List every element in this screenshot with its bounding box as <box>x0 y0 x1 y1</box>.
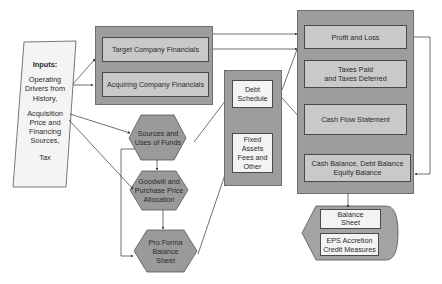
debt-line: Debt <box>245 85 260 94</box>
balance-sheet-line: Sheet <box>341 219 360 228</box>
cash-debt-equity-balances: Cash Balance, Debt Balance Equity Balanc… <box>304 154 411 182</box>
fixed-line: Assets <box>242 144 264 153</box>
taxes-line: Taxes Paid <box>338 65 373 74</box>
inputs-title: Inputs: <box>18 60 72 69</box>
pro-forma-label: Pro Forma Balance Sheet <box>136 232 195 270</box>
sources-uses-label: Sources and Uses of Funds <box>130 118 186 158</box>
pnl-label: Profit and Loss <box>332 33 380 42</box>
inputs-text: Inputs: Operating Drivers from History, … <box>18 60 72 162</box>
fixed-line: Fees and <box>238 153 268 162</box>
sources-uses-line: Uses of Funds <box>135 138 181 147</box>
arrow-inputs-to-sources <box>70 114 130 133</box>
pro-forma-line: Sheet <box>156 256 175 265</box>
pro-forma-line: Balance <box>153 247 179 256</box>
fixed-assets-fees: Fixed Assets Fees and Other <box>232 133 273 173</box>
goodwill-line: Goodwill and <box>138 177 180 186</box>
debt-schedule: Debt Schedule <box>232 80 273 108</box>
cash-flow-statement: Cash Flow Statement <box>304 104 407 135</box>
inputs-line: Sources, <box>18 136 72 145</box>
inputs-line: Price and <box>18 118 72 127</box>
arrow-inputs-to-target <box>73 59 95 84</box>
sources-uses-line: Sources and <box>138 129 178 138</box>
goodwill-line: Purchase Price <box>135 186 184 195</box>
eps-credit-output: EPS Accretion Credit Measures <box>320 233 379 256</box>
balances-line: Cash Balance, Debt Balance <box>312 159 404 168</box>
inputs-line: History, <box>18 94 72 103</box>
debt-line: Schedule <box>238 94 268 103</box>
inputs-line: Operating <box>18 75 72 84</box>
inputs-line: Acquisition <box>18 109 72 118</box>
target-company-financials: Target Company Financials <box>102 37 209 62</box>
balances-line: Equity Balance <box>334 168 382 177</box>
fixed-line: Fixed <box>244 135 262 144</box>
goodwill-line: Allocation <box>143 195 174 204</box>
goodwill-label: Goodwill and Purchase Price Allocation <box>130 172 188 209</box>
fixed-line: Other <box>244 162 262 171</box>
target-label: Target Company Financials <box>112 45 199 54</box>
acquiring-label: Acquiring Company Financials <box>107 80 204 89</box>
balance-sheet-output: Balance Sheet <box>320 209 381 229</box>
taxes-paid-deferred: Taxes Paid and Taxes Deferred <box>304 60 407 88</box>
taxes-line: and Taxes Deferred <box>324 74 387 83</box>
eps-line: Credit Measures <box>323 245 376 254</box>
acquiring-company-financials: Acquiring Company Financials <box>102 72 209 97</box>
inputs-line: Tax <box>18 153 72 162</box>
inputs-line: Drivers from <box>18 84 72 93</box>
inputs-line: Financing <box>18 127 72 136</box>
profit-and-loss: Profit and Loss <box>304 25 407 49</box>
pro-forma-line: Pro Forma <box>149 238 183 247</box>
cfs-label: Cash Flow Statement <box>321 115 390 124</box>
arrow-inputs-to-goodwill <box>69 120 133 189</box>
eps-line: EPS Accretion <box>327 236 373 245</box>
